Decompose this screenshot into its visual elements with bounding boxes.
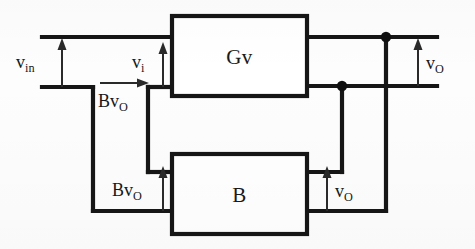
label-v-i: vi [132, 53, 144, 74]
label-bv-o-bottom: BvO [112, 181, 142, 202]
label-v-i-sub: i [141, 61, 144, 75]
v-i-arrow [159, 42, 168, 87]
label-v-in: vin [16, 53, 35, 74]
label-bv-o-top-base: Bv [98, 91, 119, 111]
label-bv-o-top: BvO [98, 92, 128, 113]
label-v-o-bottom: vO [335, 182, 353, 203]
junction-dot-feedback-node [337, 81, 347, 91]
v-o-right-arrow [414, 38, 423, 86]
label-v-o-right-sub: O [435, 62, 444, 76]
figure-canvas: Gv B vin vi BvO BvO vO vO [0, 0, 475, 249]
label-bv-o-top-sub: O [119, 100, 128, 114]
label-v-o-bottom-sub: O [344, 190, 353, 204]
label-v-o-bottom-base: v [335, 181, 344, 201]
label-v-i-base: v [132, 52, 141, 72]
label-v-o-right: vO [426, 54, 444, 75]
bv-o-top-arrow [100, 79, 149, 88]
diagram-svg [0, 0, 475, 249]
label-v-in-base: v [16, 52, 25, 72]
junction-dot-output-node-top [381, 32, 391, 42]
block-label-gv: Gv [172, 45, 307, 70]
label-v-in-sub: in [25, 61, 35, 75]
v-in-arrow [58, 38, 67, 87]
label-v-o-right-base: v [426, 53, 435, 73]
label-bv-o-bottom-sub: O [133, 189, 142, 203]
label-bv-o-bottom-base: Bv [112, 180, 133, 200]
block-label-b: B [172, 183, 307, 208]
